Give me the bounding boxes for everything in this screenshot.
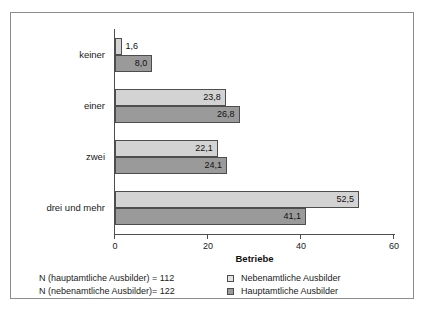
category-label: keiner <box>79 50 105 60</box>
bar-value-label: 1,6 <box>121 42 138 51</box>
legend-item-nebenamtliche: Nebenamtliche Ausbilder <box>227 272 341 285</box>
x-tick-mark <box>393 234 394 239</box>
bar-nebenamtliche: 52,5 <box>115 191 359 208</box>
bar-hauptamtliche: 24,1 <box>115 157 227 174</box>
x-tick-label: 40 <box>296 241 306 251</box>
chart-legend: Nebenamtliche Ausbilder Hauptamtliche Au… <box>227 272 341 298</box>
footer-note-2: N (nebenamtliche Ausbilder)= 122 <box>39 285 175 298</box>
legend-item-hauptamtliche: Hauptamtliche Ausbilder <box>227 285 341 298</box>
category-label: einer <box>84 101 105 111</box>
category-label: drei und mehr <box>46 203 105 213</box>
bar-value-label: 8,0 <box>135 59 152 68</box>
x-axis-title: Betriebe <box>115 253 394 264</box>
bar-value-label: 52,5 <box>337 195 359 204</box>
bar-nebenamtliche: 22,1 <box>115 140 218 157</box>
legend-label-nebenamtliche: Nebenamtliche Ausbilder <box>241 272 341 285</box>
x-axis-line <box>114 234 395 235</box>
bar-value-label: 24,1 <box>205 161 227 170</box>
legend-label-hauptamtliche: Hauptamtliche Ausbilder <box>241 285 338 298</box>
footer-note-1: N (hauptamtliche Ausbilder) = 112 <box>39 272 175 285</box>
bar-value-label: 41,1 <box>284 212 306 221</box>
bar-group: zwei22,124,1 <box>115 140 394 174</box>
bar-hauptamtliche: 26,8 <box>115 106 240 123</box>
x-tick-mark <box>300 234 301 239</box>
chart-figure: 0204060 keiner1,68,0einer23,826,8zwei22,… <box>10 12 414 299</box>
legend-swatch-icon-light <box>227 275 234 282</box>
bar-hauptamtliche: 41,1 <box>115 208 306 225</box>
x-tick-mark <box>207 234 208 239</box>
bar-group: drei und mehr52,541,1 <box>115 191 394 225</box>
category-label: zwei <box>86 152 105 162</box>
bar-group: keiner1,68,0 <box>115 38 394 72</box>
bar-group: einer23,826,8 <box>115 89 394 123</box>
bar-nebenamtliche: 1,6 <box>115 38 122 55</box>
legend-swatch-icon-dark <box>227 288 234 295</box>
x-tick-label: 20 <box>203 241 213 251</box>
footer-notes: N (hauptamtliche Ausbilder) = 112 N (neb… <box>39 272 175 298</box>
plot-area: 0204060 keiner1,68,0einer23,826,8zwei22,… <box>115 29 394 234</box>
x-tick-label: 0 <box>112 241 117 251</box>
bar-value-label: 22,1 <box>195 144 217 153</box>
bar-value-label: 23,8 <box>203 93 225 102</box>
x-tick-mark <box>114 234 115 239</box>
x-tick-label: 60 <box>389 241 399 251</box>
bar-hauptamtliche: 8,0 <box>115 55 152 72</box>
bar-nebenamtliche: 23,8 <box>115 89 226 106</box>
bar-value-label: 26,8 <box>217 110 239 119</box>
